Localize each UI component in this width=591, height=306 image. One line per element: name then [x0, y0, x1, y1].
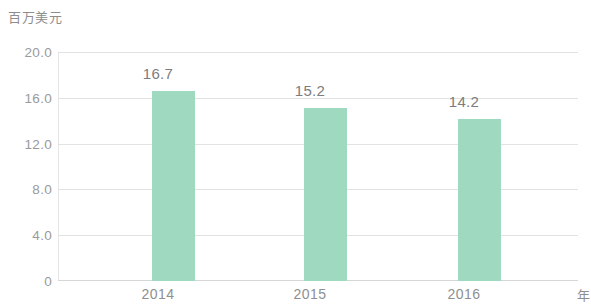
gridline	[58, 52, 578, 53]
y-tick-label: 8.0	[2, 183, 52, 197]
bar-chart: 百万美元 20.0 16.0 12.0 8.0 4.0 0 16.7 15.2 …	[0, 0, 591, 306]
bar-value-label: 16.7	[123, 66, 193, 82]
y-tick-label: 16.0	[2, 92, 52, 106]
y-tick-label: 12.0	[2, 138, 52, 152]
y-tick-label: 4.0	[2, 229, 52, 243]
y-axis-line	[58, 52, 59, 281]
x-tick-label-2016: 2016	[429, 286, 499, 302]
y-tick-label: 0	[2, 275, 52, 289]
bar-value-label: 15.2	[275, 83, 345, 99]
x-tick-label-2014: 2014	[123, 286, 193, 302]
x-axis-caption: 年	[577, 288, 590, 304]
y-tick-label: 20.0	[2, 46, 52, 60]
y-axis-tick-labels: 20.0 16.0 12.0 8.0 4.0 0	[0, 0, 52, 306]
bar-2015	[304, 108, 347, 281]
bar-2016	[458, 119, 501, 281]
bar-2014	[152, 91, 195, 281]
bar-value-label: 14.2	[429, 94, 499, 110]
x-tick-label-2015: 2015	[275, 286, 345, 302]
